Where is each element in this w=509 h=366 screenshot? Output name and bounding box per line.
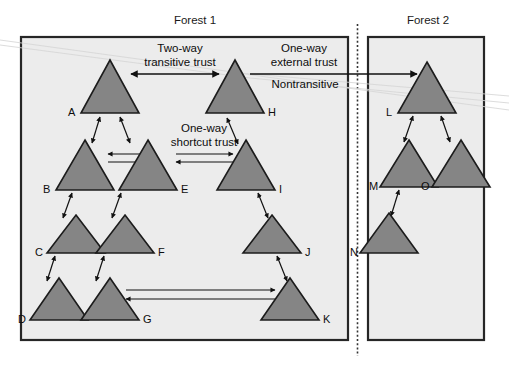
node-label-L: L — [386, 106, 392, 118]
node-label-H: H — [268, 106, 276, 118]
annotation-shortcut-line2: shortcut trust — [171, 136, 238, 148]
node-label-F: F — [158, 246, 165, 258]
annotation-shortcut-line1: One-way — [181, 122, 227, 134]
node-label-B: B — [43, 183, 50, 195]
node-label-C: C — [35, 246, 43, 258]
annotation-two-way-line2: transitive trust — [144, 56, 216, 68]
forest-1-title: Forest 1 — [174, 14, 216, 26]
forest-2-title: Forest 2 — [407, 14, 449, 26]
node-label-I: I — [279, 183, 282, 195]
annotation-external-line1: One-way — [281, 42, 327, 54]
node-label-O: O — [421, 180, 430, 192]
node-label-A: A — [68, 106, 76, 118]
diagram-root: Forest 1 Forest 2 — [0, 0, 509, 366]
annotation-nontransitive: Nontransitive — [271, 78, 338, 90]
node-label-N: N — [350, 246, 358, 258]
node-label-D: D — [18, 313, 26, 325]
node-label-E: E — [181, 183, 188, 195]
annotation-external-line2: external trust — [271, 56, 338, 68]
node-label-K: K — [323, 313, 331, 325]
node-label-M: M — [369, 180, 378, 192]
forest-trust-diagram: Forest 1 Forest 2 — [0, 0, 509, 366]
annotation-two-way-line1: Two-way — [157, 42, 203, 54]
node-label-J: J — [305, 246, 311, 258]
node-label-G: G — [143, 313, 152, 325]
